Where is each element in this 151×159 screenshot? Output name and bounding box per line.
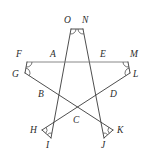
segment-ml [128, 62, 130, 73]
vertex-label-i: I [46, 141, 49, 151]
vertex-label-l: L [133, 70, 138, 80]
vertex-label-d: D [110, 90, 117, 100]
segment-hi [42, 130, 51, 138]
vertex-label-g: G [12, 70, 19, 80]
vertex-label-j: J [101, 141, 105, 151]
segment-lh [42, 73, 130, 130]
segment-fg [25, 62, 27, 73]
vertex-label-k: K [117, 126, 123, 136]
segment-oi [51, 29, 71, 138]
vertex-label-m: M [130, 50, 138, 60]
vertex-label-n: N [82, 16, 88, 26]
vertex-label-f: F [16, 50, 22, 60]
vertex-label-a: A [50, 50, 56, 60]
star-polygon-figure: ABCDEFGHIJKLMNO [0, 0, 151, 159]
star-diagram-canvas [0, 0, 151, 159]
vertex-label-h: H [30, 126, 37, 136]
vertex-label-o: O [64, 16, 71, 26]
segment-gk [25, 73, 113, 130]
vertex-label-b: B [38, 90, 44, 100]
segment-jk [104, 130, 113, 138]
vertex-label-c: C [73, 116, 79, 126]
angle-arc-h [46, 127, 47, 133]
angle-arc-k [108, 127, 109, 133]
vertex-label-e: E [100, 50, 106, 60]
